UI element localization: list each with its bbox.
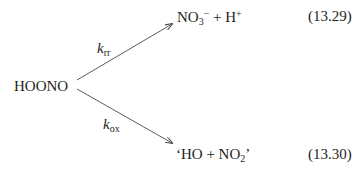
upper-reaction-arrow	[77, 24, 172, 80]
rate-subscript: rr	[104, 47, 111, 58]
reactant-hoono: HOONO	[14, 79, 68, 94]
product-proton-charge: +	[236, 8, 242, 19]
product-nitrate: NO	[177, 9, 199, 25]
rate-constant-kox: kox	[103, 117, 120, 134]
equation-number: (13.30)	[308, 146, 352, 162]
rate-symbol: k	[103, 116, 110, 132]
rate-constant-krr: krr	[97, 41, 110, 58]
equation-number-13-30: (13.30)	[308, 147, 352, 162]
lower-reaction-arrow	[77, 89, 172, 143]
rate-subscript: ox	[110, 123, 120, 134]
rate-symbol: k	[97, 40, 104, 56]
upper-product: NO3− + H+	[177, 9, 242, 27]
equation-number-13-29: (13.29)	[308, 9, 352, 24]
product-radicals: ‘HO + NO	[176, 146, 240, 162]
reactant-label: HOONO	[14, 78, 68, 94]
product-proton: + H	[209, 9, 236, 25]
lower-product: ‘HO + NO2’	[176, 147, 250, 164]
equation-number: (13.29)	[308, 8, 352, 24]
product-closing-quote: ’	[245, 146, 250, 162]
